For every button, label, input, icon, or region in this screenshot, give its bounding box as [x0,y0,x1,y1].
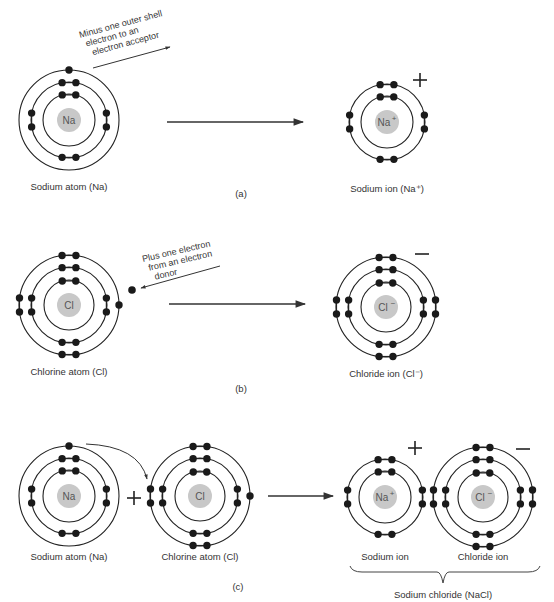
free-electron [128,286,136,294]
electron [28,109,35,116]
electron [472,543,479,550]
electron [58,264,65,271]
electron [28,308,35,315]
atom-cl: Cl− [430,444,536,550]
electron [345,296,352,303]
electron [375,266,382,273]
electron-transfer-arrow-icon [86,444,147,479]
electron [59,467,66,474]
electron [389,341,396,348]
nucleus-symbol: Na [378,117,391,128]
electron [419,500,426,507]
nucleus-symbol: Na [63,115,76,126]
electron [58,351,65,358]
electron [486,456,493,463]
electron [472,444,479,451]
electron [58,339,65,346]
electron [333,310,340,317]
electron [103,294,110,301]
electron [234,499,241,506]
electron [72,467,79,474]
electron [58,530,65,537]
electron [375,254,382,261]
electron [190,468,197,475]
electron [203,443,210,450]
electron [59,91,66,98]
electron [28,499,35,506]
electron [72,455,79,462]
electron [103,109,110,116]
electron [529,500,536,507]
electron [388,531,395,538]
grouping-brace [350,566,540,583]
electron [65,66,72,73]
electron [72,264,79,271]
electron [374,531,381,538]
electron [72,339,79,346]
atom-na: Na [19,442,119,546]
electron [420,310,427,317]
electron [442,486,449,493]
electron [147,485,154,492]
diagram-canvas: (a)NaSodium atom (Na)Na+Sodium ion (Na⁺)… [0,0,554,602]
annotation-note: Plus one electronfrom an electrondonor [141,239,216,284]
electron [421,111,428,118]
electron [59,277,66,284]
atom-na: Na+ [346,73,428,163]
atom-label: Sodium atom (Na) [30,181,107,192]
electron [389,266,396,273]
nucleus-symbol: Cl [195,491,204,502]
electron [376,81,383,88]
nucleus-charge: + [392,114,397,123]
electron [58,79,65,86]
electron [16,308,23,315]
electron [58,154,65,161]
electron [72,252,79,259]
electron [103,308,110,315]
electron [430,486,437,493]
electron [376,156,383,163]
electron [189,530,196,537]
atom-label: Chloride ion [458,551,509,562]
electron [388,456,395,463]
electron [28,485,35,492]
electron [345,310,352,317]
nucleus-charge: − [488,489,493,498]
nucleus-symbol: Cl [475,492,484,503]
atom-na: Na+ [344,441,426,538]
atom-na: Na [19,66,119,170]
electron [203,530,210,537]
electron [203,468,210,475]
electron [72,277,79,284]
electron [375,341,382,348]
electron [72,91,79,98]
electron [374,456,381,463]
atom-label: Chloride ion (Cl⁻) [349,368,423,379]
panel-caption: (b) [235,383,247,394]
electron [115,301,122,308]
electron [419,486,426,493]
electron [234,485,241,492]
electron [388,468,395,475]
atom-cl: Cl [147,443,254,549]
electron [432,296,439,303]
electron [389,353,396,360]
electron [389,279,396,286]
electron [344,486,351,493]
electron [390,93,397,100]
nucleus-symbol: Cl [378,302,387,313]
electron [203,455,210,462]
nucleus-symbol: Na [63,491,76,502]
electron [65,442,72,449]
electron [346,125,353,132]
electron [189,542,196,549]
electron [389,254,396,261]
electron [472,456,479,463]
electron [472,531,479,538]
electron [421,125,428,132]
electron [517,500,524,507]
electron [72,154,79,161]
electron [203,542,210,549]
electron [103,485,110,492]
electron [28,294,35,301]
